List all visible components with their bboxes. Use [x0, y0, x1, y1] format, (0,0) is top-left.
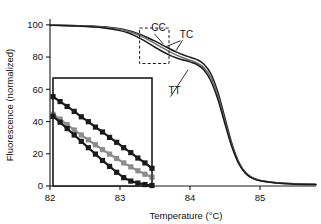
inset-marker-tc: [100, 147, 105, 152]
y-tick-label: 40: [32, 116, 43, 127]
chart-canvas: 02040608010082838485 CCTCTT Temperature …: [0, 0, 321, 224]
leader-tc-secondary: [166, 41, 180, 47]
inset-marker-tc: [107, 151, 112, 156]
inset-marker-tt: [57, 120, 62, 125]
x-tick-label: 82: [45, 192, 56, 203]
inset-marker-cc: [72, 109, 77, 114]
inset-plot: [50, 78, 154, 188]
inset-marker-tt: [135, 180, 140, 185]
y-tick-label: 20: [32, 148, 43, 159]
x-axis-title: Temperature (°C): [150, 210, 223, 221]
inset-marker-tc: [114, 156, 119, 161]
inset-marker-tt: [72, 132, 77, 137]
inset-marker-tt: [128, 178, 133, 183]
inset-marker-tt: [114, 170, 119, 175]
inset-marker-tc: [86, 137, 91, 142]
inset-marker-cc: [57, 99, 62, 104]
y-tick-label: 0: [38, 180, 43, 191]
inset-marker-cc: [100, 129, 105, 134]
inset-marker-cc: [142, 160, 147, 165]
melting-curve-figure: 02040608010082838485 CCTCTT Temperature …: [0, 0, 321, 224]
y-tick-label: 60: [32, 84, 43, 95]
inset-marker-tt: [79, 139, 84, 144]
inset-marker-tc: [121, 160, 126, 165]
inset-marker-cc: [121, 145, 126, 150]
x-tick-label: 83: [115, 192, 126, 203]
inset-marker-tt: [93, 151, 98, 156]
inset-marker-tt: [86, 145, 91, 150]
inset-marker-tc: [128, 164, 133, 169]
inset-marker-tc: [135, 168, 140, 173]
label-tc: TC: [180, 29, 193, 40]
label-cc: CC: [151, 22, 165, 33]
y-tick-label: 100: [27, 19, 43, 30]
inset-marker-tc: [93, 142, 98, 147]
inset-marker-cc: [79, 114, 84, 119]
inset-marker-tc: [142, 172, 147, 177]
inset-marker-cc: [107, 135, 112, 140]
inset-marker-tt: [65, 126, 70, 131]
inset-marker-cc: [135, 155, 140, 160]
inset-marker-cc: [65, 104, 70, 109]
inset-marker-cc: [93, 124, 98, 129]
inset-marker-tt: [121, 175, 126, 180]
inset-marker-cc: [86, 119, 91, 124]
x-tick-label: 84: [185, 192, 196, 203]
y-tick-label: 80: [32, 51, 43, 62]
inset-marker-tc: [79, 132, 84, 137]
inset-marker-tt: [100, 158, 105, 163]
inset-marker-cc: [114, 140, 119, 145]
y-axis-title: Fluorescence (normalized): [4, 49, 15, 161]
inset-marker-cc: [128, 150, 133, 155]
label-tt: TT: [168, 85, 180, 96]
inset-marker-tt: [107, 164, 112, 169]
x-tick-label: 85: [255, 192, 266, 203]
